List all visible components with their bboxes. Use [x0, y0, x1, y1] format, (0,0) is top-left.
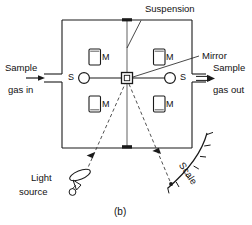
magnet-bottom-left [89, 96, 101, 112]
sphere-right [165, 73, 176, 84]
label-mirror: Mirror [202, 50, 227, 61]
magnet-top-right-label: M [166, 52, 174, 63]
label-sample-gas-out-line2: gas out [213, 84, 244, 96]
magnet-top-left-label: M [102, 52, 110, 63]
suspension-top-anchor [122, 18, 132, 21]
inlet-duct [44, 74, 62, 82]
lens-icon [68, 167, 92, 183]
inlet-flow-arrow [26, 75, 45, 81]
magnet-bottom-left-label: M [102, 99, 110, 110]
suspension-bottom-anchor [122, 145, 132, 148]
magnet-top-left [89, 49, 101, 65]
magnet-bottom-right-label: M [166, 99, 174, 110]
sphere-left [79, 73, 90, 84]
outlet-flow-arrow [196, 75, 215, 82]
label-sample-gas-in-line1: Sample [5, 62, 37, 74]
suspension-leader-line [127, 21, 141, 49]
magnet-top-right [154, 49, 166, 65]
light-source-assembly [68, 167, 92, 196]
magnet-bottom-right [154, 96, 166, 112]
sphere-left-label: S [68, 72, 74, 83]
figure-caption: (b) [114, 206, 126, 217]
label-suspension: Suspension [145, 3, 195, 14]
lamp-bulb-icon [69, 189, 76, 196]
label-light-source-line2: source [19, 186, 48, 198]
label-sample-gas-out-line1: Sample [213, 62, 245, 74]
sphere-right-label: S [180, 72, 186, 83]
figure-container: Suspension Mirror Sample gas in Sample g… [0, 0, 252, 225]
mirror-element [122, 73, 133, 84]
label-sample-gas-in-line2: gas in [8, 84, 33, 96]
label-light-source-line1: Light [31, 172, 52, 184]
